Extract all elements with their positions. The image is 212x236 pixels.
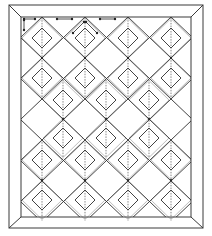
- arrow-end-dot: [23, 29, 25, 31]
- lattice-line: [88, 17, 212, 236]
- inner-diamond: [43, 80, 83, 121]
- lattice-line: [45, 17, 212, 236]
- arrow-end-dot: [99, 18, 101, 20]
- inner-diamond: [151, 18, 191, 59]
- lattice-node: [127, 57, 129, 59]
- lattice-node: [62, 118, 64, 120]
- miter-line: [191, 217, 203, 228]
- inner-diamond: [86, 80, 126, 121]
- measurement-arrow: [99, 18, 116, 20]
- lattice-node: [127, 179, 129, 181]
- lattice-line: [131, 17, 212, 236]
- inner-diamond: [108, 58, 148, 99]
- miter-line: [9, 217, 21, 228]
- measurement-arrow: [23, 19, 25, 31]
- quilt-pattern-drawing: [0, 0, 212, 236]
- lattice-node: [170, 57, 172, 59]
- lattice-node: [84, 57, 86, 59]
- lattice-line: [0, 17, 82, 236]
- arrow-end-dot: [85, 21, 87, 23]
- inner-diamond: [86, 118, 126, 159]
- measurement-arrow: [56, 18, 73, 20]
- arrow-end-dot: [23, 19, 25, 21]
- miter-line: [9, 5, 21, 17]
- inner-diamond: [129, 118, 169, 159]
- lattice-line: [85, 17, 212, 236]
- lattice-node: [41, 57, 43, 59]
- inner-diamond: [43, 118, 83, 159]
- inner-diamond: [151, 140, 191, 181]
- inner-diamond: [108, 180, 148, 221]
- arrow-end-dot: [56, 18, 58, 20]
- miter-line: [191, 5, 203, 17]
- arrow-end-dot: [71, 18, 73, 20]
- inner-diamond: [108, 140, 148, 181]
- inner-diamond: [22, 140, 62, 181]
- inner-border: [21, 17, 191, 217]
- lattice-node: [41, 179, 43, 181]
- arrow-end-dot: [96, 32, 98, 34]
- lattice-node: [105, 118, 107, 120]
- lattice-node: [148, 118, 150, 120]
- inner-diamond: [65, 18, 105, 59]
- inner-diamond: [129, 80, 169, 121]
- lattice-line: [42, 17, 212, 236]
- quilt-diagram: Quilt pattern: diamond lattice with mite…: [0, 0, 212, 236]
- arrow-end-dot: [72, 32, 74, 34]
- inner-diamond: [65, 180, 105, 221]
- inner-diamond: [108, 18, 148, 59]
- arrow-end-dot: [34, 18, 36, 20]
- inner-diamond: [22, 180, 62, 221]
- inner-diamond: [65, 58, 105, 99]
- arrow-end-dot: [114, 18, 116, 20]
- lattice-node: [170, 179, 172, 181]
- inner-diamond: [151, 58, 191, 99]
- inner-diamond: [22, 18, 62, 59]
- inner-diamond: [22, 58, 62, 99]
- lattice-line: [0, 17, 85, 236]
- lattice-node: [84, 179, 86, 181]
- inner-diamond: [65, 140, 105, 181]
- inner-diamond: [151, 180, 191, 221]
